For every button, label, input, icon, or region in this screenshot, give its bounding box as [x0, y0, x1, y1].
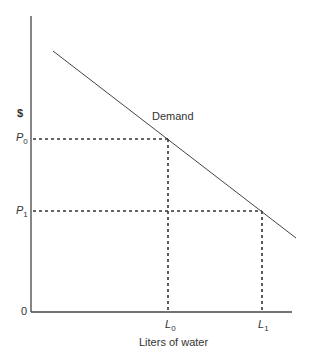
origin-label: 0	[21, 305, 27, 317]
p1-label: P1	[16, 204, 28, 219]
demand-label: Demand	[152, 110, 194, 122]
x-axis-label: Liters of water	[139, 336, 208, 348]
l1-label: L1	[258, 318, 269, 333]
chart-canvas	[0, 0, 314, 360]
y-axis-label: $	[17, 107, 23, 119]
demand-line	[53, 51, 296, 238]
l0-label: L0	[165, 318, 176, 333]
p0-label: P0	[16, 131, 28, 146]
